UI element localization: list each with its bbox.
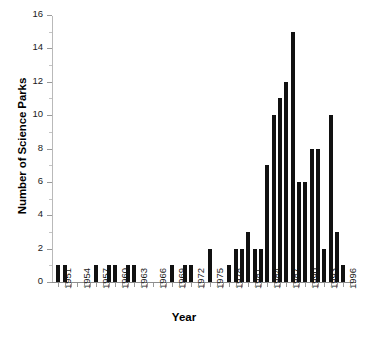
bar bbox=[303, 182, 307, 282]
y-tick-minor bbox=[49, 32, 52, 33]
bar-chart-figure: Number of Science Parks 0246810121416 19… bbox=[0, 0, 368, 344]
x-tick bbox=[153, 283, 154, 287]
x-tick bbox=[179, 283, 180, 287]
y-tick: 2 bbox=[47, 249, 52, 250]
bar bbox=[297, 182, 301, 282]
x-tick bbox=[147, 283, 148, 287]
bar bbox=[253, 249, 257, 282]
x-tick bbox=[299, 283, 300, 287]
x-tick bbox=[305, 283, 306, 287]
bar bbox=[341, 265, 345, 282]
y-tick-label: 10 bbox=[32, 108, 43, 119]
x-tick bbox=[255, 283, 256, 287]
x-tick bbox=[204, 283, 205, 287]
y-tick-minor bbox=[49, 165, 52, 166]
bar bbox=[335, 232, 339, 282]
y-tick-label: 4 bbox=[38, 208, 43, 219]
x-tick bbox=[280, 283, 281, 287]
bar bbox=[94, 265, 98, 282]
bar bbox=[272, 115, 276, 282]
x-tick bbox=[223, 283, 224, 287]
x-tick bbox=[141, 283, 142, 287]
bar bbox=[189, 265, 193, 282]
x-tick bbox=[274, 283, 275, 287]
x-tick bbox=[109, 283, 110, 287]
bar bbox=[234, 249, 238, 282]
bar bbox=[316, 149, 320, 283]
y-axis-line bbox=[52, 16, 53, 283]
x-tick bbox=[77, 283, 78, 287]
y-tick-minor bbox=[49, 265, 52, 266]
x-tick bbox=[115, 283, 116, 287]
bar bbox=[170, 265, 174, 282]
x-tick bbox=[96, 283, 97, 287]
bar bbox=[246, 232, 250, 282]
x-tick bbox=[160, 283, 161, 287]
y-tick-minor bbox=[49, 98, 52, 99]
x-tick bbox=[166, 283, 167, 287]
bar bbox=[107, 265, 111, 282]
y-tick: 8 bbox=[47, 149, 52, 150]
x-tick bbox=[242, 283, 243, 287]
bar bbox=[240, 249, 244, 282]
y-tick-label: 6 bbox=[38, 175, 43, 186]
y-tick-label: 14 bbox=[32, 41, 43, 52]
y-tick-label: 8 bbox=[38, 142, 43, 153]
bar bbox=[132, 265, 136, 282]
bar bbox=[56, 265, 60, 282]
x-tick bbox=[343, 283, 344, 287]
x-tick bbox=[103, 283, 104, 287]
bar bbox=[227, 265, 231, 282]
bar bbox=[265, 165, 269, 282]
y-tick-label: 2 bbox=[38, 242, 43, 253]
x-tick bbox=[217, 283, 218, 287]
bar bbox=[291, 32, 295, 282]
y-tick-minor bbox=[49, 199, 52, 200]
x-tick bbox=[236, 283, 237, 287]
x-tick bbox=[65, 283, 66, 287]
bar bbox=[284, 82, 288, 282]
x-tick bbox=[58, 283, 59, 287]
y-tick-label: 12 bbox=[32, 75, 43, 86]
y-tick-minor bbox=[49, 65, 52, 66]
x-tick bbox=[90, 283, 91, 287]
x-tick bbox=[337, 283, 338, 287]
y-tick-minor bbox=[49, 132, 52, 133]
bar bbox=[278, 98, 282, 282]
bar bbox=[322, 249, 326, 282]
x-tick bbox=[267, 283, 268, 287]
bar bbox=[208, 249, 212, 282]
x-tick bbox=[312, 283, 313, 287]
x-tick bbox=[71, 283, 72, 287]
x-tick bbox=[324, 283, 325, 287]
x-tick bbox=[248, 283, 249, 287]
bar bbox=[310, 149, 314, 283]
y-tick: 10 bbox=[47, 115, 52, 116]
y-tick-label: 16 bbox=[32, 8, 43, 19]
bar bbox=[329, 115, 333, 282]
x-tick bbox=[134, 283, 135, 287]
y-tick: 16 bbox=[47, 15, 52, 16]
x-tick bbox=[185, 283, 186, 287]
x-tick bbox=[229, 283, 230, 287]
x-tick bbox=[293, 283, 294, 287]
x-tick bbox=[261, 283, 262, 287]
x-tick bbox=[128, 283, 129, 287]
x-tick bbox=[331, 283, 332, 287]
x-tick bbox=[318, 283, 319, 287]
x-tick bbox=[198, 283, 199, 287]
x-tick bbox=[84, 283, 85, 287]
y-tick: 14 bbox=[47, 48, 52, 49]
x-tick bbox=[350, 283, 351, 287]
y-tick: 4 bbox=[47, 215, 52, 216]
bar bbox=[183, 265, 187, 282]
plot-area: 0246810121416 19511954195719601963196619… bbox=[52, 16, 356, 283]
y-tick: 12 bbox=[47, 82, 52, 83]
x-tick bbox=[210, 283, 211, 287]
x-tick bbox=[286, 283, 287, 287]
bar bbox=[63, 265, 67, 282]
y-tick: 6 bbox=[47, 182, 52, 183]
y-tick-label: 0 bbox=[38, 275, 43, 286]
x-axis-title: Year bbox=[0, 311, 368, 323]
x-tick bbox=[191, 283, 192, 287]
